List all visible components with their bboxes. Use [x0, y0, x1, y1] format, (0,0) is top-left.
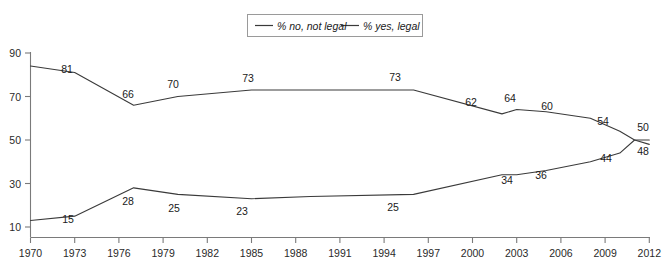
- data-label-yes-50: 50: [633, 122, 653, 133]
- data-label-no-81: 81: [57, 64, 77, 75]
- x-axis-label-1982: 1982: [190, 248, 224, 259]
- x-axis-label-1985: 1985: [235, 248, 269, 259]
- y-axis-label-10: 10: [1, 222, 21, 233]
- data-label-yes-34: 34: [497, 175, 517, 186]
- data-label-no-60: 60: [537, 101, 557, 112]
- x-axis-label-1976: 1976: [102, 248, 136, 259]
- x-axis-label-1988: 1988: [279, 248, 313, 259]
- data-label-yes-25-1996: 25: [383, 202, 403, 213]
- legend-label-yes-legal: % yes, legal: [363, 21, 420, 32]
- legend-label-no-not-legal: % no, not legal: [277, 21, 346, 32]
- y-axis-label-90: 90: [1, 48, 21, 59]
- x-axis-label-2009: 2009: [588, 248, 622, 259]
- data-label-no-73-1985: 73: [238, 73, 258, 84]
- x-axis-label-1973: 1973: [58, 248, 92, 259]
- y-axis-label-50: 50: [1, 135, 21, 146]
- series-line-yes-legal: [31, 140, 650, 220]
- data-label-no-73-1996: 73: [385, 72, 405, 83]
- data-label-no-48: 48: [633, 146, 653, 157]
- x-axis-label-2000: 2000: [456, 248, 490, 259]
- data-label-yes-23: 23: [232, 206, 252, 217]
- data-label-yes-28: 28: [118, 196, 138, 207]
- x-axis-label-1994: 1994: [367, 248, 401, 259]
- x-axis-label-2003: 2003: [500, 248, 534, 259]
- x-axis-label-2006: 2006: [544, 248, 578, 259]
- x-axis-label-1979: 1979: [146, 248, 180, 259]
- y-axis-label-70: 70: [1, 92, 21, 103]
- x-axis-label-1991: 1991: [323, 248, 357, 259]
- data-label-no-54: 54: [593, 116, 613, 127]
- data-label-yes-15: 15: [58, 214, 78, 225]
- data-label-yes-36: 36: [531, 170, 551, 181]
- y-axis-label-30: 30: [1, 179, 21, 190]
- data-label-no-70: 70: [163, 79, 183, 90]
- x-axis-label-1997: 1997: [411, 248, 445, 259]
- data-label-yes-25: 25: [164, 203, 184, 214]
- data-label-no-62: 62: [461, 97, 481, 108]
- x-axis-label-2012: 2012: [632, 248, 666, 259]
- x-axis-label-1970: 1970: [14, 248, 48, 259]
- data-label-no-64: 64: [500, 93, 520, 104]
- data-label-no-66: 66: [118, 89, 138, 100]
- data-label-yes-44: 44: [596, 153, 616, 164]
